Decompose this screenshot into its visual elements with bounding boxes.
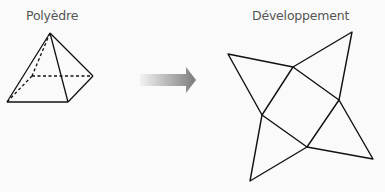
edge-apex-frontright <box>50 33 68 102</box>
hidden-edge-apex-backleft <box>32 33 50 76</box>
hidden-edge-left <box>7 76 32 102</box>
net-triangle-top-left <box>228 54 293 115</box>
right-arrow-icon <box>140 67 196 93</box>
edge-apex-frontleft <box>7 33 50 102</box>
net-base-square <box>262 67 339 147</box>
edge-right <box>68 76 93 102</box>
net-triangle-bottom-left <box>250 115 307 181</box>
net-triangle-top-right <box>293 32 352 100</box>
edge-apex-backright <box>50 33 93 76</box>
net-triangle-bottom-right <box>307 100 373 159</box>
pyramid-net <box>228 32 373 181</box>
diagram-canvas <box>0 0 385 192</box>
pyramid <box>7 33 93 102</box>
